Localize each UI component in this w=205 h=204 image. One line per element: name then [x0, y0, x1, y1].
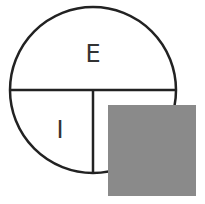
- gray-square: [108, 105, 196, 196]
- label-i: I: [56, 116, 63, 144]
- diagram: E I: [0, 0, 205, 204]
- label-e: E: [85, 40, 100, 68]
